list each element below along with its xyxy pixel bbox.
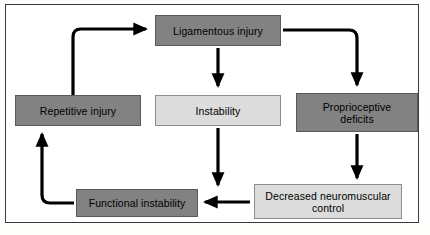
node-ligamentous-injury: Ligamentous injury [155, 15, 281, 46]
node-decreased-neuromuscular-control: Decreased neuromuscular control [254, 184, 402, 219]
node-label: Instability [196, 105, 241, 117]
node-label: Repetitive injury [40, 105, 116, 117]
node-label-line2: control [312, 202, 344, 214]
node-label: Functional instability [89, 197, 186, 209]
node-proprioceptive-deficits: Proprioceptive deficits [296, 93, 418, 132]
flowchart-figure: Ligamentous injury Repetitive injury Ins… [0, 0, 430, 235]
node-instability: Instability [155, 95, 281, 126]
node-repetitive-injury: Repetitive injury [15, 95, 141, 126]
node-label: Ligamentous injury [173, 25, 263, 37]
node-label-line1: Proprioceptive [323, 101, 392, 113]
node-functional-instability: Functional instability [76, 189, 198, 217]
node-label-line2: deficits [340, 113, 373, 125]
node-label-line1: Decreased neuromuscular [265, 190, 390, 202]
